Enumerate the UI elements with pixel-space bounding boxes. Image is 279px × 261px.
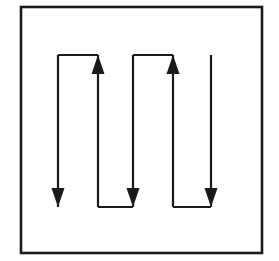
- figure-root: Boustrophedon coverage path Serpentine (…: [0, 0, 279, 261]
- boustrophedon-path-diagram: [0, 0, 279, 261]
